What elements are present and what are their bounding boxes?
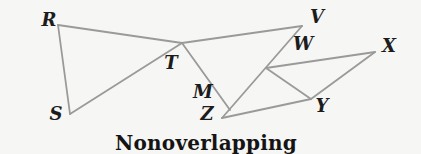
geometry-figure: RSTVWXYZM Nonoverlapping [0, 0, 421, 154]
edge-TV [182, 26, 302, 43]
vertex-label-V: V [310, 8, 324, 26]
vertex-label-T: T [164, 54, 177, 72]
vertex-label-S: S [50, 105, 63, 123]
vertex-label-R: R [42, 11, 57, 29]
triangle-diagram: RSTVWXYZM Nonoverlapping [0, 0, 421, 154]
edge-WX [266, 52, 375, 68]
vertex-label-X: X [382, 37, 396, 55]
vertex-label-M: M [193, 83, 213, 101]
vertex-label-Y: Y [316, 97, 329, 115]
vertex-label-W: W [293, 35, 313, 53]
edge-XY [311, 52, 375, 99]
edge-RS [58, 25, 70, 114]
figure-caption: Nonoverlapping [115, 133, 297, 153]
vertex-label-Z: Z [200, 105, 213, 123]
edge-WY [266, 68, 311, 99]
edge-RT [58, 25, 182, 43]
